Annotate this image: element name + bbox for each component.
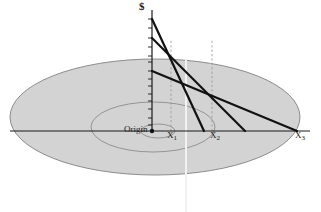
diagram-canvas: $ Origin X1 X2 X3 xyxy=(0,0,321,212)
x3-label-text: X xyxy=(295,130,302,140)
origin-point xyxy=(150,129,154,133)
budget-constraint-figure xyxy=(0,0,321,212)
x2-label-subscript: 2 xyxy=(217,134,221,142)
x1-label-subscript: 1 xyxy=(174,134,178,142)
ellipse-group xyxy=(10,59,300,175)
x3-label: X3 xyxy=(295,131,305,140)
x2-label: X2 xyxy=(210,131,220,140)
outer-ellipse xyxy=(10,59,300,175)
money-axis-label: $ xyxy=(139,1,145,12)
x1-label-text: X xyxy=(167,130,174,140)
x2-label-text: X xyxy=(210,130,217,140)
origin-label: Origin xyxy=(124,125,148,134)
x1-label: X1 xyxy=(167,131,177,140)
x3-label-subscript: 3 xyxy=(302,134,306,142)
